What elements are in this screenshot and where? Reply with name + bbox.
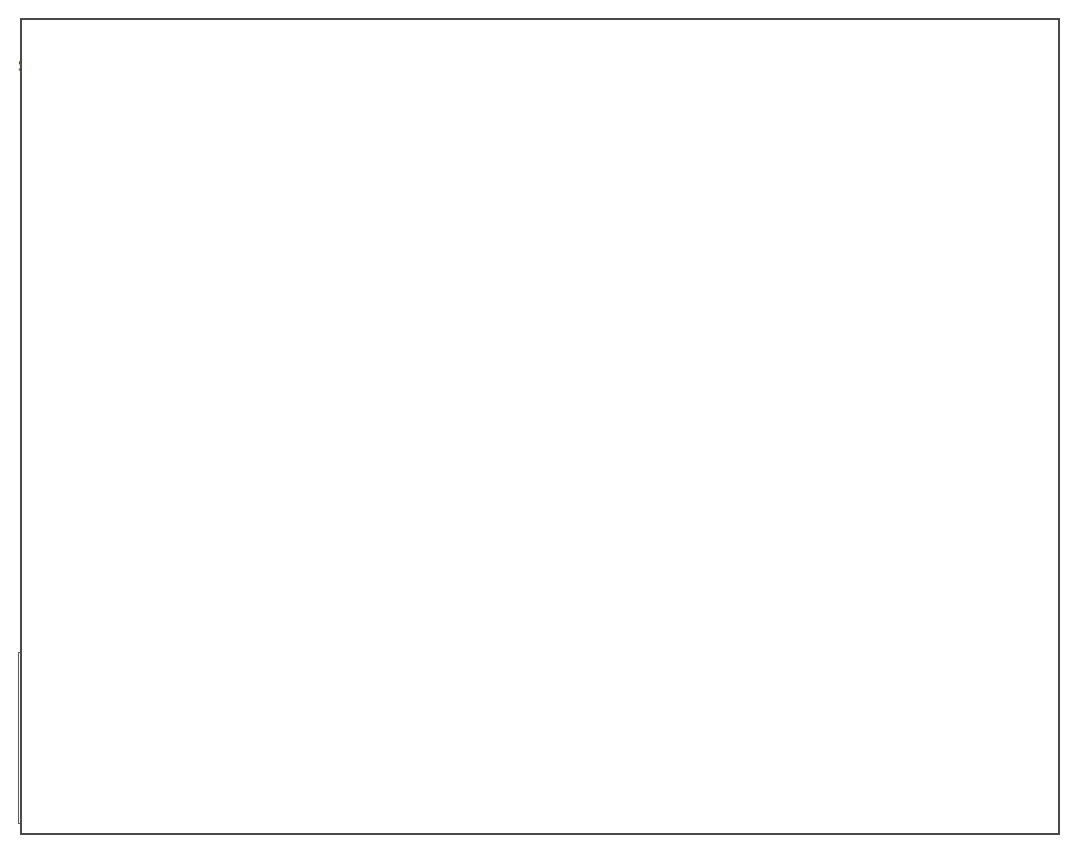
map-frame-border — [20, 18, 1060, 835]
map-root: SeattlePortlandBoiseHelenaRenoSan Franci… — [0, 0, 1075, 849]
